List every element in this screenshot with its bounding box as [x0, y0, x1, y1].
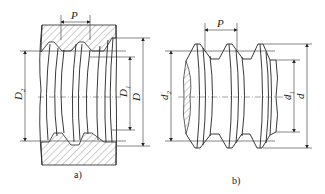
figure-a-caption: a) [74, 169, 82, 181]
nut-body-bottom [41, 133, 116, 165]
figure-b-external-thread: P d2 d1 d b) [158, 17, 312, 187]
nut-body-top [41, 25, 116, 52]
thread-diagram: P D2 D1 D a) [0, 0, 325, 194]
figure-b-d-label: d [294, 93, 306, 99]
figure-a-internal-thread: P D2 D1 D a) [12, 9, 150, 181]
figure-b-pitch-label: P [216, 17, 224, 29]
figure-a-d-label: D [130, 93, 142, 102]
figure-a-pitch-label: P [70, 9, 78, 21]
figure-b-caption: b) [232, 175, 240, 187]
